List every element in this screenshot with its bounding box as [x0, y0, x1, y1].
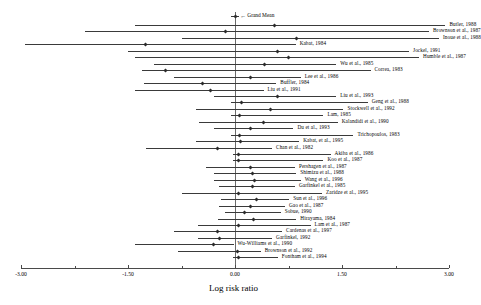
- study-label: Garfinkel et al., 1985: [299, 183, 345, 188]
- study-label: Inoue et al., 1988: [443, 35, 481, 40]
- study-row: Brownson et al., 1987: [0, 31, 467, 32]
- point-estimate-marker: [286, 56, 290, 60]
- study-label: Stockwell et al., 1992: [347, 106, 394, 111]
- study-label: Du et al., 1993: [297, 125, 329, 130]
- study-row: Liu et al., 1993: [0, 96, 467, 97]
- confidence-interval-line: [196, 141, 299, 142]
- confidence-interval-line: [231, 115, 323, 116]
- x-axis-label: Log risk ratio: [0, 284, 467, 293]
- study-label: Correa, 1983: [375, 67, 403, 72]
- summary-label: Grand Mean: [247, 13, 274, 18]
- x-tick: [21, 265, 22, 268]
- study-label: Liu et al., 1991: [268, 87, 301, 92]
- point-estimate-marker: [249, 75, 253, 79]
- point-estimate-marker: [239, 140, 243, 144]
- x-axis: [21, 268, 449, 269]
- study-label: Akiba et al., 1986: [335, 151, 374, 156]
- point-estimate-marker: [249, 204, 253, 208]
- x-tick-label: -1.50: [122, 272, 134, 278]
- study-label: Trichopoulos, 1983: [357, 132, 399, 137]
- study-row: Butler, 1988: [0, 25, 467, 26]
- point-estimate-marker: [215, 230, 219, 234]
- study-row: Chan et al., 1982: [0, 148, 467, 149]
- x-minor-tick: [182, 266, 183, 268]
- point-estimate-marker: [269, 107, 273, 111]
- study-label: Lee et al., 1986: [305, 74, 339, 79]
- point-estimate-marker: [275, 49, 279, 53]
- study-row: Akiba et al., 1986: [0, 154, 467, 155]
- study-label: Liu et al., 1993: [340, 93, 373, 98]
- point-estimate-marker: [236, 256, 240, 260]
- study-row: Wang et al., 1996: [0, 180, 467, 181]
- point-estimate-marker: [261, 120, 265, 124]
- study-label: Kabat, 1984: [300, 41, 326, 46]
- point-estimate-marker: [236, 191, 240, 195]
- study-label: Hirayama, 1984: [300, 216, 335, 221]
- study-label: Buffler, 1984: [280, 80, 309, 85]
- study-label: Chan et al., 1982: [276, 145, 313, 150]
- summary-arrow-icon: ←: [240, 13, 246, 19]
- study-row: Hirayama, 1984: [0, 219, 467, 220]
- point-estimate-marker: [238, 133, 242, 137]
- confidence-interval-line: [146, 148, 272, 149]
- confidence-interval-line: [135, 57, 419, 58]
- confidence-interval-line: [182, 38, 440, 39]
- study-row: Zaridze et al., 1995: [0, 193, 467, 194]
- study-row: Fontham et al., 1994: [0, 257, 467, 258]
- point-estimate-marker: [236, 152, 240, 156]
- point-estimate-marker: [236, 223, 240, 227]
- study-row: Jockel, 1991: [0, 51, 467, 52]
- study-row: Correa, 1983: [0, 70, 467, 71]
- study-row: Geng et al., 1988: [0, 102, 467, 103]
- study-label: Garfinkel, 1992: [276, 235, 310, 240]
- point-estimate-marker: [217, 236, 221, 240]
- study-label: Lam, 1985: [327, 112, 350, 117]
- confidence-interval-line: [135, 90, 263, 91]
- summary-row: Grand Mean←: [0, 16, 467, 17]
- study-label: Gao et al., 1987: [289, 203, 324, 208]
- point-estimate-marker: [243, 210, 247, 214]
- confidence-interval-line: [214, 180, 301, 181]
- confidence-interval-line: [198, 225, 311, 226]
- study-row: Koo et al., 1987: [0, 160, 467, 161]
- study-row: Stockwell et al., 1992: [0, 109, 467, 110]
- point-estimate-marker: [276, 94, 280, 98]
- confidence-interval-line: [233, 160, 324, 161]
- confidence-interval-line: [199, 122, 337, 123]
- study-label: Cardenas et al., 1997: [286, 228, 332, 233]
- point-estimate-marker: [236, 159, 240, 163]
- confidence-interval-line: [142, 70, 370, 71]
- study-label: Shimizu et al., 1988: [300, 170, 344, 175]
- study-label: Lam et al., 1987: [315, 222, 350, 227]
- study-label: Sun et al., 1996: [293, 196, 327, 201]
- confidence-interval-line: [85, 31, 429, 32]
- study-label: Pershagen et al., 1987: [299, 164, 347, 169]
- study-label: Koo et al., 1987: [327, 157, 362, 162]
- study-row: Gao et al., 1987: [0, 206, 467, 207]
- study-label: Wu et al., 1985: [340, 61, 373, 66]
- x-tick: [449, 265, 450, 268]
- study-row: Humble et al., 1987: [0, 57, 467, 58]
- study-label: Butler, 1988: [449, 22, 476, 27]
- confidence-interval-line: [214, 128, 294, 129]
- study-label: Wu-Williams et al., 1990: [238, 241, 293, 246]
- point-estimate-marker: [239, 101, 243, 105]
- study-label: Kabat, et al., 1995: [303, 138, 343, 143]
- x-tick-label: 0.00: [230, 272, 240, 278]
- point-estimate-marker: [163, 69, 167, 73]
- study-row: Wu-Williams et al., 1990: [0, 244, 467, 245]
- point-estimate-marker: [201, 81, 205, 85]
- study-row: Brownson et al., 1992: [0, 251, 467, 252]
- x-tick-label: 3.00: [444, 272, 454, 278]
- point-estimate-marker: [263, 62, 267, 66]
- x-tick: [128, 265, 129, 268]
- study-row: Shimizu et al., 1988: [0, 173, 467, 174]
- x-minor-tick: [289, 266, 290, 268]
- x-tick: [342, 265, 343, 268]
- point-estimate-marker: [250, 185, 254, 189]
- study-row: Wu et al., 1985: [0, 64, 467, 65]
- confidence-interval-line: [135, 25, 445, 26]
- point-estimate-marker: [211, 243, 215, 247]
- point-estimate-marker: [251, 217, 255, 221]
